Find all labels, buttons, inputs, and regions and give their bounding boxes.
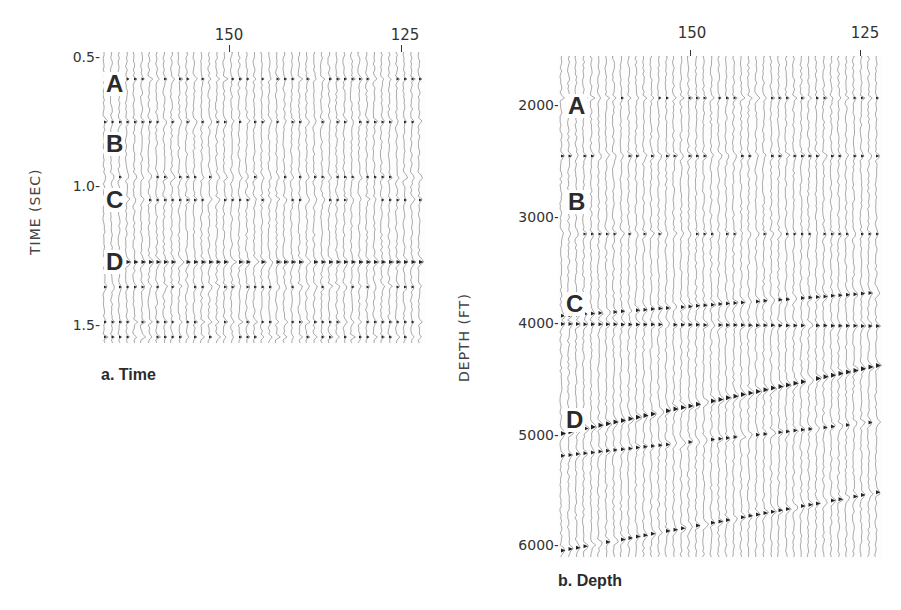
panel-depth: DEPTH (FT) 150 125 2000- 3000- 4000- 500…	[0, 0, 901, 610]
horizon-label-d: D	[564, 408, 585, 432]
x-tick-150: 150	[678, 24, 707, 42]
y-tick-5000: 5000-	[518, 427, 559, 443]
horizon-label-b: B	[566, 190, 587, 214]
y-axis-title-depth: DEPTH (FT)	[456, 293, 472, 382]
x-tick-125: 125	[851, 24, 880, 42]
y-tick-2000: 2000-	[518, 97, 559, 113]
y-tick-4000: 4000-	[518, 315, 559, 331]
seismic-section-depth	[558, 56, 883, 560]
seismic-traces	[558, 56, 883, 560]
y-tick-3000: 3000-	[518, 209, 559, 225]
caption-depth: b. Depth	[558, 572, 622, 590]
horizon-label-c: C	[564, 292, 585, 316]
horizon-label-a: A	[566, 94, 587, 118]
y-tick-6000: 6000-	[518, 537, 559, 553]
